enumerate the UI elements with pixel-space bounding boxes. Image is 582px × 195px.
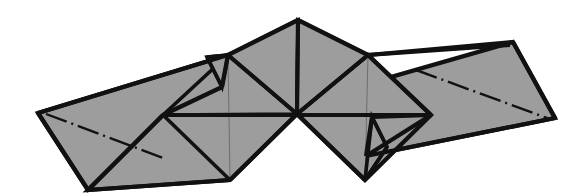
edge-right-wing-upper-fold [372, 115, 431, 117]
figure-container [0, 0, 582, 195]
polyhedron-diagram [0, 0, 582, 195]
edge-apex-to-center [297, 20, 298, 114]
edge-left-wing-flap-top [207, 55, 228, 57]
